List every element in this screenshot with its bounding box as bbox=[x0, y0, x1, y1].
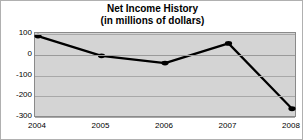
x-tick-label: 2005 bbox=[92, 121, 110, 130]
y-tick-label: -100 bbox=[2, 71, 32, 79]
chart-container: Net Income History (in millions of dolla… bbox=[0, 0, 303, 140]
y-tick-label: 100 bbox=[2, 29, 32, 37]
line-series bbox=[35, 33, 295, 116]
chart-title-block: Net Income History (in millions of dolla… bbox=[1, 3, 303, 27]
data-point-marker bbox=[161, 61, 168, 66]
x-tick-label: 2008 bbox=[282, 121, 300, 130]
data-point-marker bbox=[225, 41, 232, 46]
y-axis: 1000-100-200-300 bbox=[1, 32, 32, 117]
chart-title: Net Income History bbox=[1, 3, 303, 15]
x-tick-label: 2004 bbox=[28, 121, 46, 130]
x-tick-label: 2006 bbox=[155, 121, 173, 130]
y-tick-label: -300 bbox=[2, 112, 32, 120]
data-point-marker bbox=[288, 106, 295, 111]
gridline bbox=[35, 55, 295, 56]
gridline bbox=[35, 96, 295, 97]
x-axis: 20042005200620072008 bbox=[34, 121, 296, 135]
plot-area bbox=[34, 32, 296, 117]
gridline bbox=[35, 34, 295, 35]
gridline bbox=[35, 76, 295, 77]
x-tick-label: 2007 bbox=[219, 121, 237, 130]
chart-subtitle: (in millions of dollars) bbox=[1, 15, 303, 27]
y-tick-label: 0 bbox=[2, 50, 32, 58]
y-tick-label: -200 bbox=[2, 91, 32, 99]
gridline bbox=[35, 117, 295, 118]
series-line bbox=[38, 36, 292, 109]
